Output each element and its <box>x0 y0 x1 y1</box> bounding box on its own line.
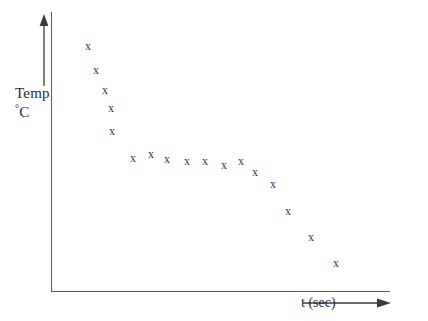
data-point-marker: x <box>270 178 276 190</box>
data-point-marker: x <box>93 64 99 76</box>
data-point-marker: x <box>221 159 227 171</box>
data-point-marker: x <box>148 148 154 160</box>
plot-area: xxxxxxxxxxxxxxxxx <box>0 0 428 321</box>
data-point-marker: x <box>308 231 314 243</box>
chart-figure: Temp °C t (sec) xxxxxxxxxxxxxxxxx <box>0 0 428 321</box>
data-point-marker: x <box>252 166 258 178</box>
data-point-marker: x <box>130 152 136 164</box>
data-point-marker: x <box>333 257 339 269</box>
data-point-marker: x <box>164 153 170 165</box>
data-point-marker: x <box>85 40 91 52</box>
data-point-marker: x <box>102 84 108 96</box>
data-point-marker: x <box>108 102 114 114</box>
data-point-marker: x <box>202 155 208 167</box>
data-point-marker: x <box>238 155 244 167</box>
data-point-marker: x <box>285 205 291 217</box>
data-point-marker: x <box>109 125 115 137</box>
data-point-marker: x <box>184 155 190 167</box>
